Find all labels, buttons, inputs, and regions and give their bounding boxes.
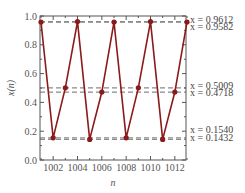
data-point-marker (87, 137, 92, 142)
reference-line-labels: x = 0.9612x = 0.9582x = 0.5009x = 0.4718… (190, 14, 233, 143)
y-tick-label: 0.4 (25, 97, 38, 108)
data-point-marker (99, 89, 104, 94)
x-tick-label: 1010 (141, 162, 161, 173)
data-point-marker (136, 85, 141, 90)
y-tick-label: 0.0 (25, 155, 38, 166)
x-tick-label: 1012 (165, 162, 185, 173)
x-tick-label: 1006 (92, 162, 112, 173)
reference-lines (40, 22, 186, 140)
data-point-marker (63, 85, 68, 90)
chart: 1002100410061008101010120.00.20.40.60.81… (0, 0, 245, 193)
reference-line-label: x = 0.4718 (190, 87, 233, 98)
series-line (41, 22, 187, 140)
y-tick-label: 0.8 (25, 39, 38, 50)
data-point-marker (172, 89, 177, 94)
y-tick-label: 0.6 (25, 68, 38, 79)
y-tick-label: 0.2 (25, 126, 38, 137)
data-point-marker (124, 135, 129, 140)
x-tick-label: 1008 (116, 162, 136, 173)
data-point-marker (38, 19, 43, 24)
data-point-marker (75, 19, 80, 24)
data-point-marker (148, 19, 153, 24)
reference-line-label: x = 0.9582 (190, 21, 233, 32)
data-point-marker (111, 19, 116, 24)
y-axis-title: x(n) (5, 79, 17, 97)
x-axis-title: n (111, 177, 116, 188)
data-point-marker (160, 137, 165, 142)
data-point-marker (184, 19, 189, 24)
data-point-marker (51, 135, 56, 140)
y-tick-label: 1.0 (25, 11, 38, 22)
data-series (38, 19, 189, 142)
x-tick-label: 1004 (68, 162, 88, 173)
x-tick-label: 1002 (43, 162, 63, 173)
reference-line-label: x = 0.1432 (190, 132, 233, 143)
